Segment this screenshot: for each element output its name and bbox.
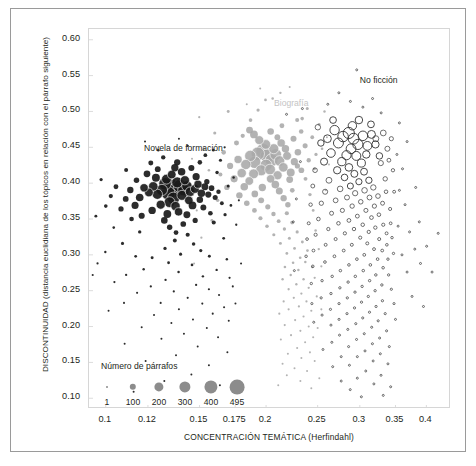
- data-point: [286, 374, 288, 376]
- data-point: [320, 265, 322, 267]
- data-point: [409, 231, 411, 233]
- data-point: [203, 153, 207, 157]
- data-point: [142, 268, 144, 270]
- data-point: [141, 326, 143, 328]
- data-point: [347, 281, 349, 283]
- data-point: [155, 166, 161, 172]
- data-point: [259, 184, 266, 191]
- data-point: [363, 333, 365, 335]
- series-label-biografia: Biografía: [274, 98, 308, 108]
- data-point: [386, 244, 389, 247]
- data-point: [348, 364, 350, 366]
- data-point: [228, 320, 230, 322]
- data-point: [108, 310, 110, 312]
- size-legend-value: 100: [126, 397, 140, 407]
- data-point: [290, 136, 296, 142]
- data-point: [383, 177, 387, 181]
- data-point: [180, 176, 189, 185]
- data-point: [414, 248, 416, 250]
- data-point: [324, 243, 327, 246]
- data-point: [322, 348, 324, 350]
- data-point: [195, 284, 197, 286]
- data-point: [280, 195, 286, 201]
- y-axis-tick-label: 0.35: [38, 212, 80, 222]
- data-point: [358, 131, 368, 141]
- data-point: [327, 227, 330, 230]
- data-point: [283, 300, 285, 302]
- data-point: [244, 200, 250, 206]
- data-point: [174, 159, 180, 165]
- data-point: [304, 177, 308, 181]
- data-point: [123, 302, 125, 304]
- data-point: [386, 330, 388, 332]
- data-point: [389, 137, 393, 141]
- data-point: [356, 356, 358, 358]
- data-point: [192, 318, 194, 320]
- data-point: [208, 169, 211, 172]
- y-axis-tick-label: 0.15: [38, 355, 80, 365]
- data-point: [279, 123, 284, 128]
- x-axis-tick-label: 0.15: [190, 414, 208, 424]
- data-point: [227, 185, 230, 188]
- data-point: [419, 262, 421, 264]
- data-point: [378, 160, 383, 165]
- data-point: [259, 88, 261, 90]
- data-point: [246, 127, 253, 134]
- data-point: [134, 255, 137, 258]
- data-point: [235, 224, 237, 226]
- data-point: [363, 141, 372, 150]
- data-point: [299, 167, 305, 173]
- data-point: [390, 386, 392, 388]
- data-point: [136, 292, 138, 294]
- data-point: [397, 225, 399, 227]
- data-point: [265, 224, 269, 228]
- data-point: [373, 248, 376, 251]
- data-point: [224, 146, 226, 148]
- data-point: [391, 169, 394, 172]
- data-point: [332, 366, 334, 368]
- data-point: [311, 184, 315, 188]
- data-point: [406, 271, 408, 273]
- data-point: [371, 326, 373, 328]
- data-point: [129, 217, 134, 222]
- data-point: [161, 155, 165, 159]
- data-point: [300, 117, 304, 121]
- data-point: [361, 168, 368, 175]
- y-axis-tick-label: 0.45: [38, 140, 80, 150]
- data-point: [139, 213, 145, 219]
- data-point: [121, 242, 124, 245]
- data-point: [232, 176, 234, 178]
- data-point: [315, 125, 320, 130]
- data-point: [96, 262, 98, 264]
- data-point: [204, 179, 209, 184]
- data-point: [379, 337, 381, 339]
- data-point: [351, 170, 358, 177]
- data-point: [216, 190, 220, 194]
- data-point: [309, 351, 311, 353]
- data-point: [337, 222, 341, 226]
- data-point: [209, 185, 215, 191]
- data-point: [287, 168, 295, 176]
- data-point: [232, 285, 234, 287]
- data-point: [286, 176, 293, 183]
- data-point: [212, 313, 214, 315]
- data-point: [348, 346, 350, 348]
- y-axis-tick-label: 0.55: [38, 69, 80, 79]
- data-point: [314, 153, 317, 156]
- data-point: [372, 360, 374, 362]
- data-point: [290, 334, 292, 336]
- y-axis-tick-label: 0.20: [38, 320, 80, 330]
- data-point: [240, 262, 242, 264]
- data-point: [215, 269, 217, 271]
- data-point: [381, 284, 383, 286]
- data-point: [317, 217, 321, 221]
- data-point: [382, 394, 384, 396]
- data-point: [208, 364, 210, 366]
- data-point: [293, 247, 296, 250]
- data-point: [283, 152, 292, 161]
- data-point: [369, 264, 372, 267]
- data-point: [279, 242, 282, 245]
- data-point: [402, 168, 404, 170]
- data-point: [327, 149, 336, 158]
- data-point: [311, 303, 313, 305]
